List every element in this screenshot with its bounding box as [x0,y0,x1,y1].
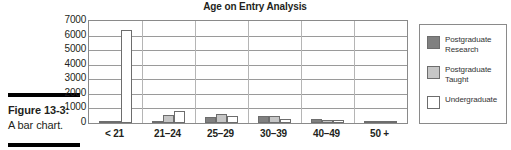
x-axis-tick: 50 + [353,128,406,140]
x-axis-tick-labels: < 2121–2425–2930–3940–4950 + [88,128,408,146]
bar-group [354,21,407,123]
bar-group [142,21,195,123]
chart-legend: Postgraduate ResearchPostgraduate Taught… [419,24,507,124]
legend-label: Postgraduate Research [445,35,505,54]
y-axis-tick: 0 [50,117,86,127]
legend-swatch-postgraduate-research [427,36,440,49]
legend-item: Postgraduate Research [427,35,503,61]
bar [174,111,185,123]
bar [311,119,322,123]
bar [386,121,397,123]
bar [258,116,269,123]
bar [269,116,280,123]
y-axis-tick: 6000 [50,30,86,40]
y-axis-tick-labels: 70006000500040003000200010000 [50,14,86,132]
bar [110,121,121,123]
bar [364,121,375,123]
x-axis-tick: 40–49 [300,128,353,140]
y-axis-tick: 1000 [50,102,86,112]
plot-area [88,20,408,124]
bar-group [89,21,142,123]
legend-swatch-undergraduate [427,96,440,109]
bar [322,120,333,123]
x-axis-tick: 25–29 [194,128,247,140]
bar-group [248,21,301,123]
bar [375,121,386,123]
bar-group [301,21,354,123]
bar [280,119,291,123]
bar [121,30,132,123]
x-axis-tick: 21–24 [141,128,194,140]
y-axis-tick: 7000 [50,15,86,25]
x-axis-tick: < 21 [88,128,141,140]
y-axis-tick: 5000 [50,44,86,54]
legend-item: Undergraduate [427,95,503,121]
legend-label: Undergraduate [445,95,505,105]
legend-swatch-postgraduate-taught [427,66,440,79]
y-axis-tick: 3000 [50,73,86,83]
x-axis-tick: 30–39 [247,128,300,140]
bar [205,117,216,123]
bar [333,120,344,123]
bar-chart: Age on Entry Analysis 700060005000400030… [0,0,511,150]
bar [216,114,227,123]
y-axis-tick: 2000 [50,88,86,98]
bar [163,115,174,123]
bar-group [195,21,248,123]
legend-label: Postgraduate Taught [445,65,505,84]
y-axis-tick: 4000 [50,59,86,69]
bar [227,116,238,123]
chart-title: Age on Entry Analysis [150,1,360,12]
bar [152,121,163,123]
legend-item: Postgraduate Taught [427,65,503,91]
bar [99,121,110,123]
